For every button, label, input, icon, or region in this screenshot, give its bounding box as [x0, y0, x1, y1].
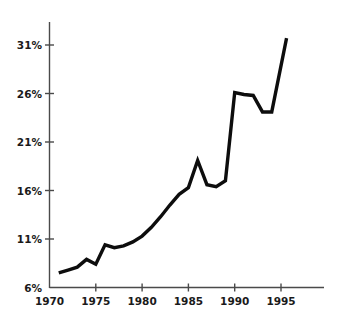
y-tick-labels: 6%11%16%21%26%31%	[17, 39, 43, 294]
data-series-group	[59, 38, 287, 273]
x-tick-label: 1980	[127, 295, 156, 307]
y-tick-label: 11%	[17, 233, 43, 245]
x-tick-label: 1995	[266, 295, 295, 307]
x-tick-labels: 197019751980198519901995	[35, 295, 296, 307]
y-tick-label: 21%	[17, 136, 43, 148]
chart-canvas: 6%11%16%21%26%31% 1970197519801985199019…	[0, 0, 341, 322]
y-tick-label: 6%	[24, 282, 42, 294]
x-tick-label: 1975	[81, 295, 110, 307]
line-chart: 6%11%16%21%26%31% 1970197519801985199019…	[0, 0, 341, 322]
data-line-series-0	[59, 38, 287, 273]
y-tick-label: 31%	[17, 39, 43, 51]
x-tick-label: 1985	[174, 295, 203, 307]
x-tick-label: 1970	[35, 295, 64, 307]
x-tick-label: 1990	[220, 295, 249, 307]
y-tick-label: 26%	[17, 88, 43, 100]
y-tick-label: 16%	[17, 185, 43, 197]
